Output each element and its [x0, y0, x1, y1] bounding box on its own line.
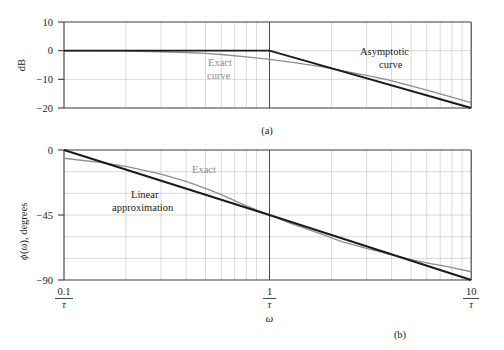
bode-plot-figure: 10 0 −10 −20 dB Exact curve Asymptotic c… — [0, 0, 504, 350]
phase-y-ticks — [58, 150, 64, 280]
magnitude-axis-frame — [64, 22, 471, 108]
phase-panel: 0 −45 −90 ϕ (ω), degrees Exact Linear ap… — [18, 145, 479, 341]
x-tick-mid-numerator: 1 — [267, 286, 272, 297]
x-tick-left-denominator: τ — [62, 299, 67, 310]
phase-exact-label: Exact — [192, 164, 216, 175]
x-tick-right-denominator: τ — [469, 299, 474, 310]
magnitude-exact-label-line1: Exact — [208, 57, 232, 68]
magnitude-exact-label-line2: curve — [207, 70, 231, 81]
x-tick-right: 10 τ — [463, 286, 479, 310]
magnitude-ytick-0: 0 — [48, 45, 53, 56]
phase-y-axis-title: ϕ (ω), degrees — [18, 203, 30, 260]
figure-page: 10 0 −10 −20 dB Exact curve Asymptotic c… — [0, 0, 504, 350]
x-tick-mid: 1 τ — [263, 286, 276, 310]
magnitude-ytick-10: 10 — [43, 17, 54, 28]
x-tick-left-numerator: 0.1 — [57, 286, 70, 297]
phase-ytick-m45: −45 — [37, 210, 53, 221]
magnitude-asymptotic-label-line2: curve — [379, 59, 403, 70]
magnitude-y-axis-title: dB — [16, 59, 27, 71]
magnitude-y-ticks — [58, 22, 64, 108]
magnitude-ytick-m10: −10 — [37, 74, 53, 85]
panel-caption-a: (a) — [261, 125, 273, 137]
phase-linear-label-line2: approximation — [112, 202, 174, 213]
phase-y-axis-title-rest: (ω), degrees — [18, 203, 30, 254]
phase-linear-label-line1: Linear — [131, 189, 159, 200]
phase-ytick-0: 0 — [48, 145, 53, 156]
magnitude-panel: 10 0 −10 −20 dB Exact curve Asymptotic c… — [16, 17, 471, 137]
x-tick-left: 0.1 τ — [55, 286, 73, 310]
magnitude-gridlines-horizontal — [64, 51, 471, 80]
x-tick-mid-denominator: τ — [268, 299, 273, 310]
phase-x-axis-title: ω — [266, 313, 273, 324]
phase-ytick-m90: −90 — [37, 275, 53, 286]
magnitude-asymptotic-label-line1: Asymptotic — [360, 46, 409, 57]
magnitude-gridlines-vertical — [126, 22, 462, 108]
panel-caption-b: (b) — [394, 329, 407, 341]
magnitude-ytick-m20: −20 — [37, 103, 53, 114]
x-tick-right-numerator: 10 — [466, 286, 477, 297]
magnitude-exact-curve — [64, 51, 471, 103]
